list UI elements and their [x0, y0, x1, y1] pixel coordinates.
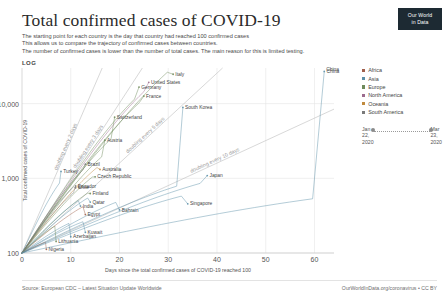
plot-area: Total confirmed cases of COVID-19 1001,0…	[22, 68, 334, 253]
logo-line-2: in Data	[398, 19, 442, 26]
slider-track	[374, 131, 430, 133]
legend-item-label: Asia	[368, 76, 379, 82]
country-label-germany[interactable]: Germany	[141, 85, 162, 90]
country-label-austria[interactable]: Austria	[107, 138, 123, 143]
country-endpoint-france[interactable]	[143, 95, 145, 97]
doubling-line-label: doubling every 5 days	[124, 115, 165, 154]
country-label-switzerland[interactable]: Switzerland	[117, 115, 143, 120]
country-endpoint-singapore[interactable]	[187, 203, 189, 205]
legend-swatch-icon	[362, 69, 365, 72]
country-label-france[interactable]: France	[146, 94, 162, 99]
country-endpoint-azerbaijan[interactable]	[70, 236, 72, 238]
legend-swatch-icon	[362, 94, 365, 97]
logo-line-1: Our World	[398, 12, 442, 19]
legend-item-north-america[interactable]: North America	[362, 91, 442, 99]
subtitle-line-1: The starting point for each country is t…	[22, 33, 367, 40]
source-text: Source: European CDC – Latest Situation …	[22, 285, 162, 291]
x-tick-label: 30	[164, 256, 172, 263]
country-label-czech-republic[interactable]: Czech Republic	[97, 174, 132, 179]
country-endpoint-switzerland[interactable]	[114, 116, 116, 118]
legend-item-label: South America	[368, 109, 403, 115]
country-endpoint-china[interactable]	[323, 71, 325, 73]
doubling-line-label: doubling every 10 days	[189, 146, 240, 174]
country-label-finland[interactable]: Finland	[92, 191, 108, 196]
country-label-kuwait[interactable]: Kuwait	[88, 230, 103, 235]
continent-legend: AfricaAsiaEuropeNorth AmericaOceaniaSout…	[362, 66, 442, 116]
legend-swatch-icon	[362, 102, 365, 105]
chart-canvas: doubling every 2 daysdoubling every 3 da…	[22, 68, 334, 253]
x-tick-label: 10	[67, 256, 75, 263]
country-endpoint-germany[interactable]	[138, 86, 140, 88]
legend-item-asia[interactable]: Asia	[362, 74, 442, 82]
country-endpoint-bahrain[interactable]	[119, 209, 121, 211]
country-endpoint-japan[interactable]	[206, 175, 208, 177]
country-label-qatar[interactable]: Qatar	[92, 200, 105, 205]
country-endpoint-brazil[interactable]	[84, 163, 86, 165]
x-tick-label: 50	[262, 256, 270, 263]
legend-item-label: Oceania	[368, 101, 388, 107]
chart-header: Total confirmed cases of COVID-19 The st…	[22, 10, 367, 55]
country-endpoint-united-states[interactable]	[148, 81, 150, 83]
chart-footer: Source: European CDC – Latest Situation …	[22, 280, 437, 291]
y-tick-label: 10,000	[0, 100, 19, 107]
country-label-brazil[interactable]: Brazil	[88, 162, 100, 167]
country-endpoint-ecuador[interactable]	[75, 185, 77, 187]
legend-swatch-icon	[362, 77, 365, 80]
x-tick-label: 60	[311, 256, 319, 263]
country-label-australia[interactable]: Australia	[102, 167, 121, 172]
y-tick-label: 1,000	[1, 175, 19, 182]
country-line-turkey[interactable]	[22, 171, 61, 253]
country-endpoint-australia[interactable]	[99, 169, 101, 171]
x-axis-title: Days since the total confirmed cases of …	[22, 267, 334, 273]
legend-item-south-america[interactable]: South America	[362, 108, 442, 116]
legend-item-oceania[interactable]: Oceania	[362, 100, 442, 108]
country-label-south-korea[interactable]: South Korea	[185, 105, 212, 110]
log-scale-toggle[interactable]: LOG	[22, 60, 36, 66]
country-endpoint-turkey[interactable]	[60, 171, 62, 173]
country-endpoint-egypt[interactable]	[84, 214, 86, 216]
chart-subtitle: The starting point for each country is t…	[22, 33, 367, 55]
country-endpoint-south-korea[interactable]	[182, 107, 184, 109]
country-endpoint-lithuania[interactable]	[55, 240, 57, 242]
country-endpoint-chile[interactable]	[75, 187, 77, 189]
x-tick-label: 40	[213, 256, 221, 263]
country-endpoint-india[interactable]	[80, 205, 82, 207]
country-label-italy[interactable]: Italy	[175, 72, 185, 77]
our-world-in-data-logo: Our World in Data	[398, 8, 442, 30]
country-endpoint-nigeria[interactable]	[45, 248, 47, 250]
credit-link[interactable]: OurWorldInData.org/coronavirus • CC BY	[342, 285, 437, 291]
legend-swatch-icon	[362, 111, 365, 114]
country-label-japan[interactable]: Japan	[209, 173, 223, 178]
slider-handle-end[interactable]	[429, 128, 433, 132]
country-label-singapore[interactable]: Singapore	[190, 201, 213, 206]
annotation-china: China	[326, 67, 339, 72]
country-endpoint-finland[interactable]	[89, 193, 91, 195]
chart-page: Total confirmed cases of COVID-19 The st…	[0, 0, 445, 303]
legend-item-label: Africa	[368, 67, 382, 73]
legend-swatch-icon	[362, 85, 365, 88]
time-range-slider[interactable]: Jan 22, 2020 Mar 23, 2020	[362, 126, 442, 145]
country-label-egypt[interactable]: Egypt	[88, 212, 101, 217]
subtitle-line-2: This allows us to compare the trajectory…	[22, 40, 367, 47]
country-endpoint-austria[interactable]	[104, 139, 106, 141]
legend-item-label: North America	[368, 92, 402, 98]
country-endpoint-qatar[interactable]	[89, 201, 91, 203]
legend-item-europe[interactable]: Europe	[362, 83, 442, 91]
subtitle-line-3: The number of confirmed cases is lower t…	[22, 48, 367, 55]
country-label-turkey[interactable]: Turkey	[63, 169, 78, 174]
page-title: Total confirmed cases of COVID-19	[22, 10, 367, 30]
country-label-chile[interactable]: Chile	[78, 185, 89, 190]
x-tick-label: 20	[116, 256, 124, 263]
country-endpoint-kuwait[interactable]	[84, 231, 86, 233]
x-tick-label: 0	[20, 256, 24, 263]
country-label-nigeria[interactable]: Nigeria	[49, 247, 65, 252]
legend-item-africa[interactable]: Africa	[362, 66, 442, 74]
legend-item-label: Europe	[368, 84, 385, 90]
y-tick-label: 100	[7, 250, 19, 257]
country-endpoint-italy[interactable]	[172, 73, 174, 75]
country-line-singapore[interactable]	[22, 196, 188, 253]
country-endpoint-czech-republic[interactable]	[94, 176, 96, 178]
slider-track-row[interactable]	[362, 126, 442, 138]
